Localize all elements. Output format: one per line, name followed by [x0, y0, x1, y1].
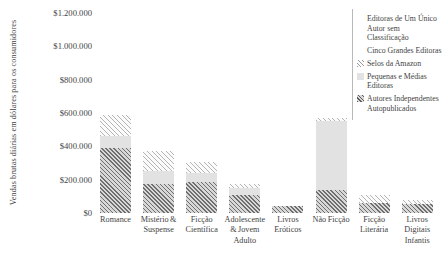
stacked-bar-chart: Vendas brutas diárias em dólares para os…: [0, 0, 443, 265]
x-tick-label: Livros Digitais Infantis: [396, 215, 439, 246]
bar-segment-small: [100, 136, 131, 149]
bar-segment-small: [316, 121, 347, 190]
stacked-bar: [186, 162, 217, 213]
legend-item[interactable]: Editoras de Um Único Autor sem Classific…: [357, 14, 443, 43]
white-swatch-icon: [357, 16, 364, 23]
y-tick-label: $0: [30, 208, 92, 218]
bar-group: [94, 13, 137, 213]
bar-segment-amazon: [359, 195, 390, 203]
y-axis-title-container: Vendas brutas diárias em dólares para os…: [0, 0, 29, 225]
bar-group: [309, 13, 352, 213]
light-gray-swatch-icon: [357, 73, 364, 80]
dark-hatch-swatch-icon: [357, 95, 364, 102]
x-tick-label: Livros Eróticos: [266, 215, 309, 246]
bar-segment-indep: [100, 148, 131, 213]
bar-group: [137, 13, 180, 213]
x-tick-label: Ficção Científica: [180, 215, 223, 246]
y-tick-label: $600.000: [30, 108, 92, 118]
bar-segment-small: [229, 188, 260, 195]
bar-segment-small: [186, 173, 217, 182]
bar-segment-amazon: [143, 151, 174, 171]
x-axis-labels: RomanceMistério & SuspenseFicção Científ…: [94, 215, 439, 246]
y-tick-label: $200.000: [30, 175, 92, 185]
y-tick-label: $400.000: [30, 141, 92, 151]
stacked-bar: [402, 200, 433, 213]
white-swatch-icon: [357, 47, 364, 54]
stacked-bar: [359, 195, 390, 213]
x-tick-label: Adolescente & Jovem Adulto: [223, 215, 266, 246]
legend-label: Editoras de Um Único Autor sem Classific…: [367, 14, 443, 43]
bar-segment-indep: [229, 195, 260, 213]
bar-segment-amazon: [100, 115, 131, 136]
bar-segment-indep: [359, 203, 390, 213]
legend-label: Autores Independentes Autopublicados: [367, 94, 443, 113]
bar-segment-indep: [272, 206, 303, 214]
legend-item[interactable]: Cinco Grandes Editoras: [357, 46, 443, 56]
chart-legend: Editoras de Um Único Autor sem Classific…: [352, 9, 443, 120]
light-hatch-swatch-icon: [357, 60, 364, 67]
stacked-bar: [272, 206, 303, 214]
stacked-bar: [316, 118, 347, 213]
legend-label: Pequenas e Médias Editoras: [367, 72, 443, 91]
y-axis-title: Vendas brutas diárias em dólares para os…: [9, 20, 20, 206]
stacked-bar: [229, 184, 260, 213]
stacked-bar: [100, 115, 131, 213]
bar-segment-indep: [402, 204, 433, 213]
legend-label: Cinco Grandes Editoras: [367, 46, 442, 56]
y-tick-label: $1.000.000: [30, 41, 92, 51]
bar-group: [223, 13, 266, 213]
x-tick-label: Romance: [94, 215, 137, 246]
bar-segment-indep: [186, 182, 217, 213]
y-tick-label: $800.000: [30, 75, 92, 85]
x-tick-label: Ficção Literária: [353, 215, 396, 246]
legend-item[interactable]: Pequenas e Médias Editoras: [357, 72, 443, 91]
x-tick-label: Não Ficção: [309, 215, 352, 246]
legend-item[interactable]: Autores Independentes Autopublicados: [357, 94, 443, 113]
bar-segment-amazon: [186, 162, 217, 173]
y-tick-label: $1.200.000: [30, 8, 92, 18]
stacked-bar: [143, 151, 174, 213]
bar-segment-indep: [316, 190, 347, 213]
legend-label: Selos da Amazon: [367, 59, 421, 69]
bar-group: [180, 13, 223, 213]
bar-group: [266, 13, 309, 213]
legend-item[interactable]: Selos da Amazon: [357, 59, 443, 69]
bar-segment-indep: [143, 184, 174, 213]
x-tick-label: Mistério & Suspense: [137, 215, 180, 246]
bar-segment-small: [143, 171, 174, 184]
